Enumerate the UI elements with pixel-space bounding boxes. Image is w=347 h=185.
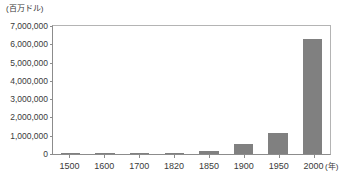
bar-slot — [157, 26, 192, 154]
y-axis-tick-mark — [50, 117, 53, 118]
x-axis-tick-mark — [279, 155, 280, 158]
x-axis-tick-slot: 1600 — [87, 155, 122, 185]
bar-group — [53, 26, 330, 154]
y-axis-tick-mark — [50, 26, 53, 27]
bar-slot — [122, 26, 157, 154]
bar-chart-figure: (百万ドル) 01,000,0002,000,0003,000,0004,000… — [0, 0, 347, 185]
x-axis-tick-mark — [314, 155, 315, 158]
bar — [303, 39, 322, 154]
y-axis-tick-label: 1,000,000 — [10, 131, 48, 140]
bar-slot — [88, 26, 123, 154]
x-axis-tick-slot: 1820 — [157, 155, 192, 185]
y-axis-tick-label: 3,000,000 — [10, 95, 48, 104]
plot-area: 01,000,0002,000,0003,000,0004,000,0005,0… — [52, 25, 331, 155]
y-axis-tick-mark — [50, 99, 53, 100]
x-axis-tick-slot: 1950 — [261, 155, 296, 185]
x-axis-tick-mark — [69, 155, 70, 158]
bar-slot — [53, 26, 88, 154]
x-axis-tick-label: 1820 — [157, 161, 192, 172]
x-axis-tick-slot: 1850 — [192, 155, 227, 185]
y-axis-tick-mark — [50, 44, 53, 45]
bar — [268, 133, 287, 154]
y-axis-tick-mark — [50, 136, 53, 137]
bar — [95, 153, 114, 154]
x-axis-tick-label: 1850 — [192, 161, 227, 172]
x-axis-tick-mark — [104, 155, 105, 158]
x-axis-tick-label: 1900 — [226, 161, 261, 172]
x-axis-tick-slot: 1700 — [122, 155, 157, 185]
bar — [234, 144, 253, 154]
bar — [61, 153, 80, 154]
x-axis-tick-label: 1600 — [87, 161, 122, 172]
y-axis-tick-label: 5,000,000 — [10, 58, 48, 67]
x-axis-tick-mark — [209, 155, 210, 158]
bar-slot — [192, 26, 227, 154]
y-axis-tick-mark — [50, 81, 53, 82]
bar — [130, 153, 149, 154]
y-axis-tick-label: 2,000,000 — [10, 113, 48, 122]
y-axis-tick-label: 6,000,000 — [10, 40, 48, 49]
y-axis-tick-mark — [50, 63, 53, 64]
x-axis-tick-mark — [244, 155, 245, 158]
x-axis-unit-label: (年) — [325, 161, 338, 172]
bar — [165, 153, 184, 154]
bar-slot — [226, 26, 261, 154]
y-axis-tick-label: 4,000,000 — [10, 76, 48, 85]
x-axis-tick-label: 1500 — [52, 161, 87, 172]
x-axis-tick-slot: 1900 — [226, 155, 261, 185]
x-axis-tick-label: 1700 — [122, 161, 157, 172]
x-axis-tick-row: 15001600170018201850190019502000 — [52, 155, 331, 185]
y-axis-unit-label: (百万ドル) — [6, 4, 43, 14]
bar-slot — [261, 26, 296, 154]
x-axis-tick-mark — [139, 155, 140, 158]
y-axis-tick-label: 0 — [43, 150, 48, 159]
x-axis-tick-mark — [174, 155, 175, 158]
x-axis-tick-slot: 1500 — [52, 155, 87, 185]
bar-slot — [295, 26, 330, 154]
bar — [199, 151, 218, 154]
x-axis-tick-label: 1950 — [261, 161, 296, 172]
y-axis-tick-label: 7,000,000 — [10, 22, 48, 31]
